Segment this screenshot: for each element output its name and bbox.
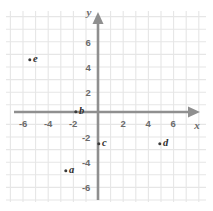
x-tick-label: 2 — [120, 118, 125, 129]
y-tick-label: -6 — [82, 182, 90, 193]
y-axis-label: y — [87, 6, 92, 18]
y-tick-label: -2 — [82, 132, 90, 143]
axes — [0, 0, 213, 211]
y-axis-arrowhead — [93, 12, 104, 24]
x-tick-label: -2 — [69, 118, 77, 129]
y-tick-label: 2 — [85, 87, 90, 98]
point-label: a — [69, 164, 74, 175]
y-tick-label: 4 — [85, 62, 90, 73]
point-label: d — [163, 137, 168, 148]
point-label: e — [33, 53, 38, 64]
x-axis-arrowhead — [188, 107, 200, 118]
x-tick-label: 4 — [145, 118, 150, 129]
point-label: b — [79, 105, 84, 116]
y-tick-label: -4 — [82, 157, 90, 168]
x-tick-label: -4 — [44, 118, 52, 129]
x-tick-label: -6 — [19, 118, 27, 129]
point-label: c — [102, 137, 107, 148]
y-tick-label: 6 — [85, 37, 90, 48]
x-axis-label: x — [194, 119, 200, 131]
coordinate-plane-figure: -6 -4 -2 2 4 6 6 4 2 -2 -4 -6 x y a b c … — [0, 0, 213, 211]
x-tick-label: 6 — [170, 118, 175, 129]
